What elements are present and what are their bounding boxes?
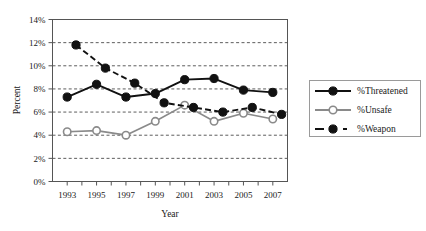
x-tick-label: 2001 bbox=[176, 190, 194, 200]
legend-item-weapon: %Weapon bbox=[310, 119, 420, 138]
series-weapon-markers bbox=[72, 41, 286, 119]
data-point-marker bbox=[269, 88, 277, 96]
data-point-marker bbox=[122, 132, 129, 139]
y-tick-label: 10% bbox=[29, 61, 46, 71]
legend-key-unsafe-icon bbox=[314, 103, 352, 117]
series-unsafe-markers bbox=[63, 101, 276, 138]
y-tick-label: 0% bbox=[34, 177, 47, 187]
series-threatened-group bbox=[63, 74, 277, 101]
legend-key-weapon-icon bbox=[314, 122, 352, 136]
data-point-marker bbox=[189, 103, 197, 111]
data-point-marker bbox=[63, 128, 70, 135]
chart-figure: 0%2%4%6%8%10%12%14% 19931995199719992001… bbox=[0, 0, 426, 231]
plot-area-wrapper: 0%2%4%6%8%10%12%14% 19931995199719992001… bbox=[0, 0, 300, 231]
data-point-marker bbox=[93, 127, 100, 134]
y-tick-label: 2% bbox=[34, 154, 47, 164]
data-point-marker bbox=[219, 108, 227, 116]
legend: %Threatened %Unsafe %Weapon bbox=[309, 80, 421, 137]
x-tick-label: 1999 bbox=[146, 190, 165, 200]
y-axis-title: Percent bbox=[12, 85, 22, 114]
x-tick-label: 2005 bbox=[234, 190, 253, 200]
y-tick-label: 4% bbox=[34, 130, 47, 140]
y-axis-ticks-group bbox=[49, 20, 53, 182]
data-point-marker bbox=[181, 76, 189, 84]
x-axis-ticks-group bbox=[67, 182, 273, 186]
legend-item-threatened: %Threatened bbox=[310, 81, 420, 100]
series-unsafe-group bbox=[63, 101, 276, 138]
data-point-marker bbox=[248, 103, 256, 111]
legend-label-unsafe: %Unsafe bbox=[352, 105, 392, 115]
data-point-marker bbox=[152, 118, 159, 125]
data-point-marker bbox=[131, 79, 139, 87]
y-tick-label: 12% bbox=[29, 38, 46, 48]
data-point-marker bbox=[269, 115, 276, 122]
x-tick-label: 1993 bbox=[58, 190, 77, 200]
data-point-marker bbox=[151, 89, 159, 97]
data-point-marker bbox=[278, 110, 286, 118]
line-chart-svg: 0%2%4%6%8%10%12%14% 19931995199719992001… bbox=[0, 0, 300, 231]
x-tick-label: 2003 bbox=[205, 190, 224, 200]
x-tick-label: 1995 bbox=[88, 190, 107, 200]
y-tick-label: 14% bbox=[29, 15, 46, 25]
x-axis-title: Year bbox=[161, 209, 179, 219]
data-point-marker bbox=[240, 110, 247, 117]
data-point-marker bbox=[210, 74, 218, 82]
data-point-marker bbox=[239, 86, 247, 94]
x-tick-label: 2007 bbox=[264, 190, 283, 200]
legend-label-weapon: %Weapon bbox=[352, 124, 396, 134]
data-point-marker bbox=[210, 118, 217, 125]
data-point-marker bbox=[160, 99, 168, 107]
y-tick-label: 8% bbox=[34, 84, 47, 94]
legend-item-unsafe: %Unsafe bbox=[310, 100, 420, 119]
data-point-marker bbox=[92, 80, 100, 88]
x-tick-label: 1997 bbox=[117, 190, 136, 200]
series-threatened-markers bbox=[63, 74, 277, 101]
y-tick-label: 6% bbox=[34, 107, 47, 117]
y-axis-tick-labels-group: 0%2%4%6%8%10%12%14% bbox=[29, 15, 46, 187]
legend-label-threatened: %Threatened bbox=[352, 86, 408, 96]
data-point-marker bbox=[101, 64, 109, 72]
data-point-marker bbox=[122, 93, 130, 101]
data-point-marker bbox=[72, 41, 80, 49]
data-point-marker bbox=[63, 93, 71, 101]
series-weapon-group bbox=[72, 41, 286, 119]
x-axis-tick-labels-group: 19931995199719992001200320052007 bbox=[58, 190, 282, 200]
legend-key-threatened-icon bbox=[314, 84, 352, 98]
